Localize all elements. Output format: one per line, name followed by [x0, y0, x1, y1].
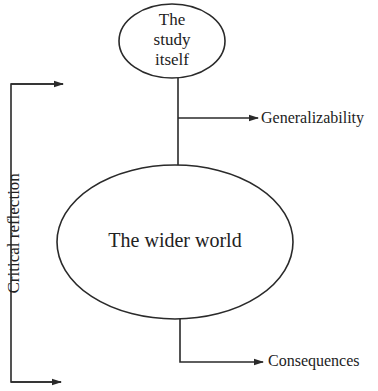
consequences-arrow [180, 319, 263, 362]
critical-reflection-label: Critical reflection [5, 174, 22, 294]
study-node-label: The study itself [127, 10, 217, 70]
consequences-label: Consequences [268, 353, 360, 369]
study-label-line-3: itself [127, 50, 217, 70]
study-label-line-2: study [127, 30, 217, 50]
world-node-label: The wider world [90, 230, 260, 250]
generalizability-label: Generalizability [261, 110, 364, 126]
study-label-line-1: The [127, 10, 217, 30]
